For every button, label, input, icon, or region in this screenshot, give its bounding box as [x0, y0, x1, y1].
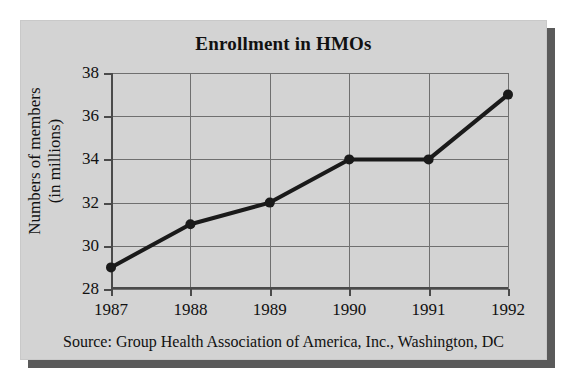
x-axis-tick-label: 1987: [94, 300, 128, 320]
y-axis-tick-label: 36: [82, 106, 99, 126]
chart-figure-panel: Enrollment in HMOs Numbers of members (i…: [20, 20, 547, 360]
x-axis-tick-label: 1988: [173, 300, 207, 320]
y-axis-label: Numbers of members (in millions): [25, 61, 65, 261]
x-axis-tick: [190, 289, 192, 296]
y-axis-tick-label: 32: [82, 193, 99, 213]
gridline-vertical: [508, 73, 509, 289]
x-axis-tick: [508, 289, 510, 296]
x-axis-tick: [270, 289, 272, 296]
y-axis-tick: [104, 73, 111, 75]
y-axis-label-line2: (in millions): [45, 61, 65, 261]
y-axis-tick: [104, 203, 111, 205]
x-axis-tick-label: 1989: [253, 300, 287, 320]
y-axis-tick: [104, 289, 111, 291]
data-point-marker: 1990: 34: [344, 154, 354, 164]
data-point-marker: 1992: 37: [503, 90, 513, 100]
data-point-marker: 1987: 29: [106, 262, 116, 272]
data-point-marker: 1989: 32: [265, 198, 275, 208]
line-series: 1987: 291988: 311989: 321990: 341991: 34…: [111, 73, 508, 289]
data-point-marker: 1991: 34: [424, 154, 434, 164]
y-axis-tick-label: 34: [82, 149, 99, 169]
y-axis-tick: [104, 246, 111, 248]
y-axis-tick-label: 38: [82, 63, 99, 83]
x-axis-tick-label: 1990: [332, 300, 366, 320]
y-axis-tick: [104, 116, 111, 118]
x-axis-tick-label: 1992: [491, 300, 525, 320]
series-line: [111, 95, 508, 268]
y-axis-tick-label: 30: [82, 236, 99, 256]
x-axis-tick: [429, 289, 431, 296]
x-axis-tick-label: 1991: [412, 300, 446, 320]
source-note: Source: Group Health Association of Amer…: [29, 333, 538, 351]
y-axis-tick: [104, 159, 111, 161]
gridline-horizontal: [111, 289, 508, 290]
y-axis-tick-label: 28: [82, 279, 99, 299]
x-axis-tick: [111, 289, 113, 296]
plot-area: 283032343638 198719881989199019911992 19…: [111, 73, 508, 289]
y-axis-label-line1: Numbers of members: [25, 87, 44, 234]
chart-title: Enrollment in HMOs: [21, 33, 546, 55]
data-point-marker: 1988: 31: [185, 219, 195, 229]
x-axis-tick: [349, 289, 351, 296]
